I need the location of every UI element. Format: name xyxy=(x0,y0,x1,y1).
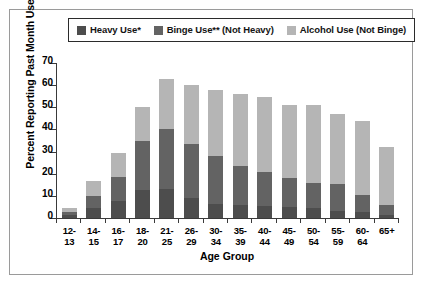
x-axis-tick-label: 14-15 xyxy=(81,226,105,247)
x-tick-label-line1: 55- xyxy=(326,226,350,237)
bar-stack[interactable] xyxy=(86,181,101,218)
x-axis-tick xyxy=(374,218,375,223)
legend-label: Heavy Use* xyxy=(90,25,141,35)
x-axis-tick-label: 16-17 xyxy=(106,226,130,247)
x-axis-tick-label: 50-54 xyxy=(301,226,325,247)
x-tick-label-line1: 50- xyxy=(301,226,325,237)
x-tick-label-line2: 17 xyxy=(106,237,130,248)
legend-swatch-icon xyxy=(77,26,86,35)
x-tick-label-line2: 49 xyxy=(277,237,301,248)
y-axis-tick-label: 60 xyxy=(29,78,53,88)
bar-stack[interactable] xyxy=(135,107,150,218)
bar-segment xyxy=(184,198,199,218)
figure: Heavy Use*Binge Use** (Not Heavy)Alcohol… xyxy=(0,0,423,293)
bar-segment xyxy=(330,114,345,184)
bar-segment xyxy=(208,156,223,204)
x-axis-tick-label: 18-20 xyxy=(130,226,154,247)
x-tick-label-line1: 12- xyxy=(57,226,81,237)
bar-segment xyxy=(184,85,199,144)
x-tick-label-line1: 21- xyxy=(155,226,179,237)
bar-stack[interactable] xyxy=(330,114,345,218)
y-axis-tick-label: 30 xyxy=(29,145,53,155)
bar-segment xyxy=(330,184,345,212)
y-axis-tick-label: 20 xyxy=(29,167,53,177)
bar-stack[interactable] xyxy=(282,105,297,218)
x-tick-label-line2: 15 xyxy=(81,237,105,248)
x-axis-label: Age Group xyxy=(56,250,398,262)
y-axis-tick-label: 10 xyxy=(29,189,53,199)
bar-segment xyxy=(208,90,223,156)
bar-segment xyxy=(306,183,321,208)
bar-segment xyxy=(282,105,297,178)
bar-stack[interactable] xyxy=(111,153,126,218)
bar-segment xyxy=(135,107,150,140)
y-axis-line xyxy=(56,63,57,219)
x-tick-label-line2: 34 xyxy=(204,237,228,248)
bar-segment xyxy=(159,189,174,218)
bar-segment xyxy=(379,215,394,218)
bar-segment xyxy=(306,208,321,218)
x-axis-tick xyxy=(349,218,350,223)
x-tick-label-line2: 39 xyxy=(228,237,252,248)
legend-entry: Heavy Use* xyxy=(77,25,141,35)
bar-segment xyxy=(111,177,126,201)
y-axis-tick-label: 70 xyxy=(29,56,53,66)
x-axis-tick-label: 40-44 xyxy=(252,226,276,247)
x-axis-tick-label: 12-13 xyxy=(57,226,81,247)
bar-segment xyxy=(355,212,370,218)
y-axis-tick-label: 40 xyxy=(29,122,53,132)
x-axis-tick xyxy=(251,218,252,223)
x-tick-label-line2: 44 xyxy=(252,237,276,248)
x-axis-tick xyxy=(56,218,57,223)
bar-segment xyxy=(330,211,345,218)
legend-swatch-icon xyxy=(287,26,296,35)
bar-stack[interactable] xyxy=(62,208,77,218)
x-tick-label-line2: 20 xyxy=(130,237,154,248)
plot-area: 010203040506070 12-1314-1516-1718-2021-2… xyxy=(56,63,398,218)
x-tick-label-line2: 13 xyxy=(57,237,81,248)
chart-legend: Heavy Use*Binge Use** (Not Heavy)Alcohol… xyxy=(68,18,415,42)
x-axis-tick xyxy=(80,218,81,223)
x-tick-label-line2: 54 xyxy=(301,237,325,248)
y-axis-tick-label: 50 xyxy=(29,100,53,110)
bar-segment xyxy=(355,121,370,195)
bar-segment xyxy=(233,94,248,166)
x-axis-tick xyxy=(276,218,277,223)
x-tick-label-line1: 18- xyxy=(130,226,154,237)
bar-segment xyxy=(62,215,77,218)
x-axis-tick xyxy=(129,218,130,223)
bar-segment xyxy=(111,201,126,218)
bar-stack[interactable] xyxy=(257,97,272,218)
x-axis-tick-label: 45-49 xyxy=(277,226,301,247)
x-tick-label-line1: 30- xyxy=(204,226,228,237)
x-tick-label-line2: 29 xyxy=(179,237,203,248)
bar-segment xyxy=(379,147,394,205)
bar-stack[interactable] xyxy=(233,94,248,218)
bar-segment xyxy=(86,181,101,195)
bar-stack[interactable] xyxy=(184,85,199,218)
x-axis-tick-label: 21-25 xyxy=(155,226,179,247)
x-axis-tick-label: 55-59 xyxy=(326,226,350,247)
x-tick-label-line1: 40- xyxy=(252,226,276,237)
x-tick-label-line1: 26- xyxy=(179,226,203,237)
legend-label: Binge Use** (Not Heavy) xyxy=(167,25,274,35)
bar-segment xyxy=(135,141,150,191)
legend-entry: Binge Use** (Not Heavy) xyxy=(154,25,274,35)
x-tick-label-line1: 60- xyxy=(350,226,374,237)
x-axis-tick-label: 35-39 xyxy=(228,226,252,247)
bar-stack[interactable] xyxy=(379,147,394,218)
bar-segment xyxy=(233,205,248,218)
x-axis-tick xyxy=(325,218,326,223)
bar-segment xyxy=(257,172,272,206)
bar-segment xyxy=(282,207,297,218)
legend-entry: Alcohol Use (Not Binge) xyxy=(287,25,406,35)
bar-segment xyxy=(86,196,101,208)
bar-segment xyxy=(282,178,297,207)
bar-stack[interactable] xyxy=(159,79,174,218)
bar-stack[interactable] xyxy=(355,121,370,218)
bar-segment xyxy=(306,105,321,183)
x-tick-label-line1: 35- xyxy=(228,226,252,237)
bar-segment xyxy=(159,129,174,189)
bar-stack[interactable] xyxy=(306,105,321,218)
bar-stack[interactable] xyxy=(208,90,223,218)
